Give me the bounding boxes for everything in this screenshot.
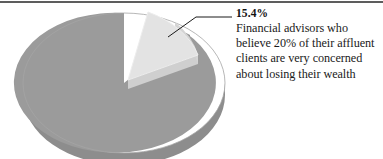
callout-label: 15.4% Financial advisors who believe 20%… bbox=[236, 6, 383, 82]
callout-description-line: Financial advisors who bbox=[236, 21, 383, 36]
pie-chart-area bbox=[0, 0, 235, 159]
pie-chart-svg bbox=[0, 0, 235, 159]
pie-chart-figure: 15.4% Financial advisors who believe 20%… bbox=[0, 0, 383, 159]
pie-slice-main-top bbox=[14, 13, 225, 153]
callout-description: Financial advisors who believe 20% of th… bbox=[236, 21, 383, 82]
callout-description-line: believe 20% of their affluent bbox=[236, 36, 383, 51]
callout-description-line: clients are very concerned bbox=[236, 51, 383, 66]
callout-description-line: about losing their wealth bbox=[236, 67, 383, 82]
callout-percent-value: 15.4% bbox=[236, 6, 383, 21]
